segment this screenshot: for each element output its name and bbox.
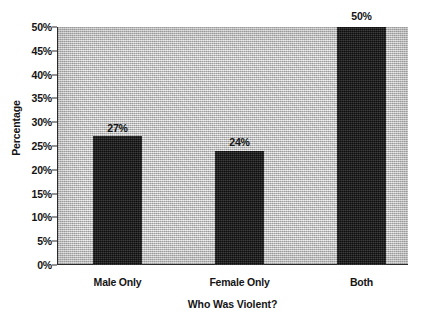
y-tick-label: 30% — [32, 116, 52, 128]
y-tick-label: 25% — [32, 140, 52, 152]
y-tick-label: 5% — [37, 235, 52, 247]
bar-chart-figure: 27% 24% 50% 50% 45% 40% 35% 30% 25% 20% … — [0, 0, 430, 319]
y-tick-label: 45% — [32, 45, 52, 57]
y-tick-label: 35% — [32, 92, 52, 104]
y-tick-label: 20% — [32, 164, 52, 176]
y-tick-mark — [52, 50, 57, 51]
y-tick-label: 0% — [37, 259, 52, 271]
y-tick-mark — [52, 146, 57, 147]
x-tick-label-male-only: Male Only — [68, 276, 167, 288]
y-tick-mark — [52, 193, 57, 194]
y-tick-label: 50% — [32, 21, 52, 33]
y-tick-mark — [52, 265, 57, 266]
y-tick-mark — [52, 27, 57, 28]
bar-value-label-female-only: 24% — [215, 136, 264, 148]
y-tick-mark — [52, 169, 57, 170]
bar-value-label-male-only: 27% — [93, 122, 142, 134]
bar-both — [337, 27, 386, 265]
x-tick-label-female-only: Female Only — [190, 276, 289, 288]
y-axis-title: Percentage — [10, 68, 22, 188]
y-tick-mark — [52, 122, 57, 123]
y-tick-mark — [52, 241, 57, 242]
y-tick-mark — [52, 98, 57, 99]
y-tick-label: 10% — [32, 211, 52, 223]
bar-value-label-both: 50% — [337, 10, 386, 22]
y-tick-mark — [52, 217, 57, 218]
bar-female-only — [215, 151, 264, 265]
bar-male-only — [93, 136, 142, 265]
x-axis-title: Who Was Violent? — [57, 298, 408, 310]
y-tick-label: 15% — [32, 188, 52, 200]
x-tick-label-both: Both — [312, 276, 411, 288]
y-tick-mark — [52, 74, 57, 75]
y-axis-ticks: 50% 45% 40% 35% 30% 25% 20% 15% 10% 5% 0… — [0, 0, 52, 319]
y-tick-label: 40% — [32, 69, 52, 81]
